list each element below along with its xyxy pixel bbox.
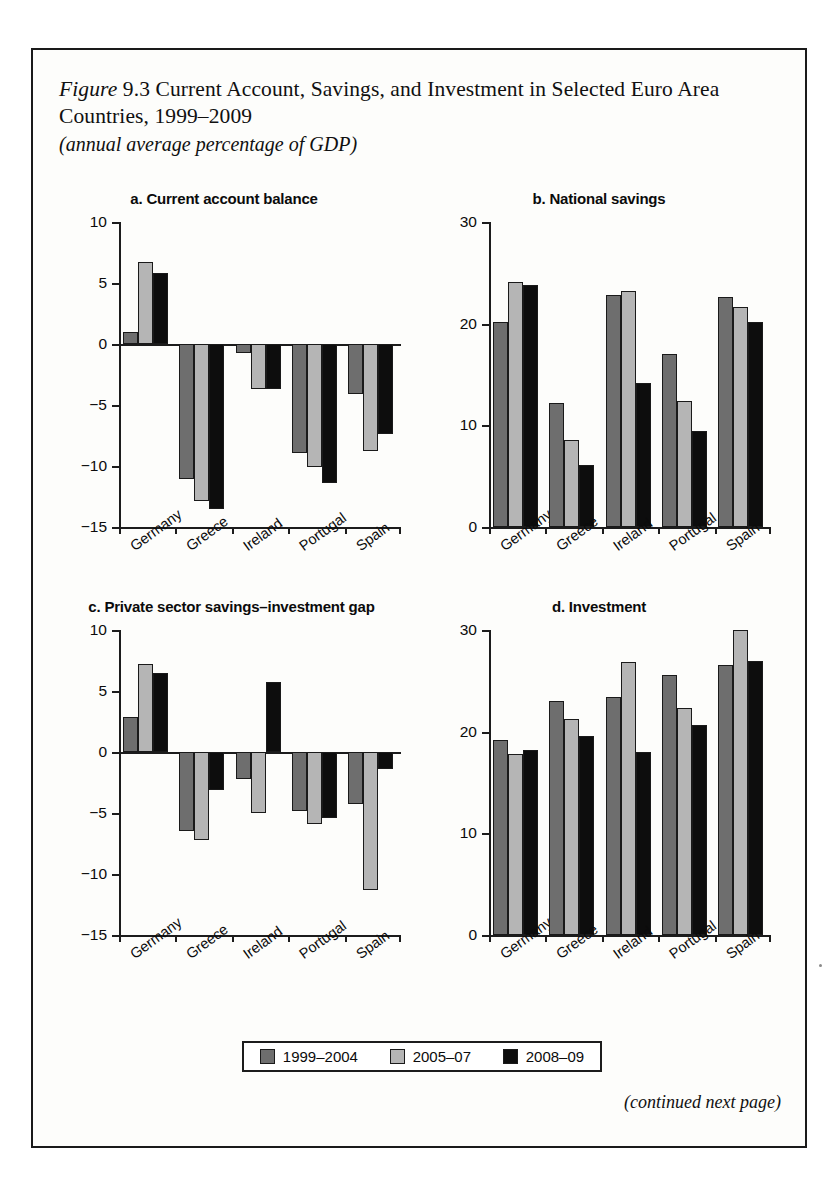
bar-panel-d-spain-s3 <box>748 661 763 936</box>
figure-number: 9.3 <box>123 77 150 101</box>
panel-c-x-label-greece: Greece <box>183 921 231 962</box>
panel-d-y-tick <box>482 630 489 632</box>
panel-d-x-tick <box>545 935 547 942</box>
bar-panel-c-greece-s1 <box>179 752 194 831</box>
bar-panel-c-ireland-s1 <box>236 752 251 779</box>
bar-panel-a-germany-s1 <box>123 332 138 344</box>
panel-c-y-axis <box>119 630 121 935</box>
bar-panel-a-greece-s1 <box>179 344 194 479</box>
panel-b-y-tick-label: 0 <box>435 518 477 536</box>
panel-b-y-tick-label: 20 <box>435 315 477 333</box>
bar-panel-c-portugal-s2 <box>307 752 322 824</box>
panel-b-y-tick <box>482 222 489 224</box>
legend-label: 2005–07 <box>413 1048 471 1065</box>
panel-d-x-tick <box>769 935 771 942</box>
bar-panel-c-portugal-s3 <box>322 752 337 818</box>
bar-panel-a-germany-s2 <box>138 262 153 344</box>
panel-a-y-tick <box>112 222 119 224</box>
panel-c-x-label-spain: Spain <box>353 927 392 962</box>
bar-panel-b-ireland-s2 <box>621 291 636 527</box>
bar-panel-b-greece-s2 <box>564 440 579 527</box>
panel-c-y-tick-label: −10 <box>65 865 107 883</box>
bar-panel-c-spain-s1 <box>348 752 363 804</box>
panel-d-y-tick <box>482 732 489 734</box>
bar-panel-b-spain-s3 <box>748 322 763 527</box>
caption-main: Figure 9.3 Current Account, Savings, and… <box>59 76 759 130</box>
panel-d-x-tick <box>658 935 660 942</box>
bar-panel-b-germany-s2 <box>508 282 523 527</box>
bar-panel-a-portugal-s3 <box>322 344 337 483</box>
bar-panel-c-ireland-s3 <box>266 682 281 752</box>
panel-b-y-tick <box>482 527 489 529</box>
panel-a-y-tick-label: −15 <box>65 518 107 536</box>
page-marker-dot <box>819 964 822 967</box>
panel-c-x-tick <box>119 935 121 942</box>
bar-panel-a-spain-s2 <box>363 344 378 451</box>
bar-panel-a-ireland-s2 <box>251 344 266 389</box>
bar-panel-d-greece-s2 <box>564 719 579 935</box>
bar-panel-a-spain-s3 <box>378 344 393 434</box>
panel-a-x-tick <box>399 527 401 534</box>
figure-caption: Figure 9.3 Current Account, Savings, and… <box>59 76 759 157</box>
panel-c-title: c. Private sector savings–investment gap <box>59 598 404 615</box>
figure-title: Current Account, Savings, and Investment… <box>59 77 719 128</box>
bar-panel-c-greece-s2 <box>194 752 209 840</box>
bar-panel-b-germany-s3 <box>523 285 538 527</box>
bar-panel-c-ireland-s2 <box>251 752 266 813</box>
continued-note: (continued next page) <box>624 1092 781 1113</box>
bar-panel-b-spain-s1 <box>718 297 733 527</box>
bar-panel-d-portugal-s1 <box>662 675 677 935</box>
bar-panel-b-ireland-s3 <box>636 383 651 527</box>
bar-panel-c-germany-s2 <box>138 664 153 752</box>
panel-c-y-tick <box>112 935 119 937</box>
panel-b-x-tick <box>769 527 771 534</box>
panel-d-title: d. Investment <box>429 598 769 615</box>
bar-panel-b-portugal-s1 <box>662 354 677 527</box>
panel-c-plot-area: 1050−5−10−15GermanyGreeceIrelandPortugal… <box>119 630 401 935</box>
bar-panel-c-germany-s3 <box>153 673 168 752</box>
bar-panel-a-spain-s1 <box>348 344 363 394</box>
chart-panel-b: b. National savings3020100GermanyGreeceI… <box>429 190 801 637</box>
panel-a-y-axis <box>119 222 121 527</box>
legend-swatch-icon <box>503 1049 518 1064</box>
panel-a-x-tick <box>175 527 177 534</box>
panel-a-x-label-ireland: Ireland <box>240 515 285 554</box>
bar-panel-c-greece-s3 <box>209 752 224 790</box>
bar-panel-a-greece-s3 <box>209 344 224 509</box>
panel-a-y-tick <box>112 466 119 468</box>
legend-item-2: 2005–07 <box>390 1048 471 1065</box>
panel-a-y-tick <box>112 405 119 407</box>
panel-b-title: b. National savings <box>429 190 769 207</box>
legend-label: 2008–09 <box>526 1048 584 1065</box>
panel-d-y-tick-label: 0 <box>435 926 477 944</box>
panel-d-y-tick <box>482 833 489 835</box>
panel-b-x-tick <box>715 527 717 534</box>
bar-panel-d-ireland-s3 <box>636 752 651 935</box>
bar-panel-c-spain-s3 <box>378 752 393 769</box>
panel-a-title: a. Current account balance <box>59 190 389 207</box>
bar-panel-b-greece-s1 <box>549 403 564 527</box>
panel-d-y-tick <box>482 935 489 937</box>
panel-a-y-tick <box>112 283 119 285</box>
panel-c-y-tick <box>112 630 119 632</box>
panel-c-y-tick <box>112 691 119 693</box>
bar-panel-d-portugal-s3 <box>692 725 707 935</box>
panel-a-y-tick <box>112 344 119 346</box>
panel-b-y-tick <box>482 425 489 427</box>
panel-a-y-tick-label: 0 <box>65 335 107 353</box>
panel-a-x-label-greece: Greece <box>183 513 231 554</box>
legend-item-3: 2008–09 <box>503 1048 584 1065</box>
caption-subtitle: (annual average percentage of GDP) <box>59 131 759 157</box>
bar-panel-d-ireland-s2 <box>621 662 636 935</box>
legend-swatch-icon <box>390 1049 405 1064</box>
panel-c-x-tick <box>232 935 234 942</box>
bar-panel-d-germany-s1 <box>493 740 508 935</box>
panel-d-y-tick-label: 30 <box>435 621 477 639</box>
panel-c-y-tick-label: −15 <box>65 926 107 944</box>
panel-b-y-tick-label: 30 <box>435 213 477 231</box>
panel-b-y-axis <box>489 222 491 527</box>
panel-c-y-tick <box>112 874 119 876</box>
panel-d-y-axis <box>489 630 491 935</box>
panel-a-y-tick <box>112 527 119 529</box>
panel-a-x-label-portugal: Portugal <box>296 509 349 554</box>
